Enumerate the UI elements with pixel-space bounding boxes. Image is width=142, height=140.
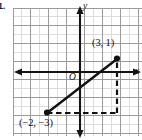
point-marker-a [114,55,120,61]
y-axis-label: y [83,1,87,11]
point-b-label: (−2, −3) [19,117,53,128]
point-marker-b [44,109,50,115]
item-number: 1. [0,1,5,11]
x-axis-label: x [135,66,139,76]
origin-label: O [69,72,76,82]
point-a-label: (3, 1) [92,37,114,48]
